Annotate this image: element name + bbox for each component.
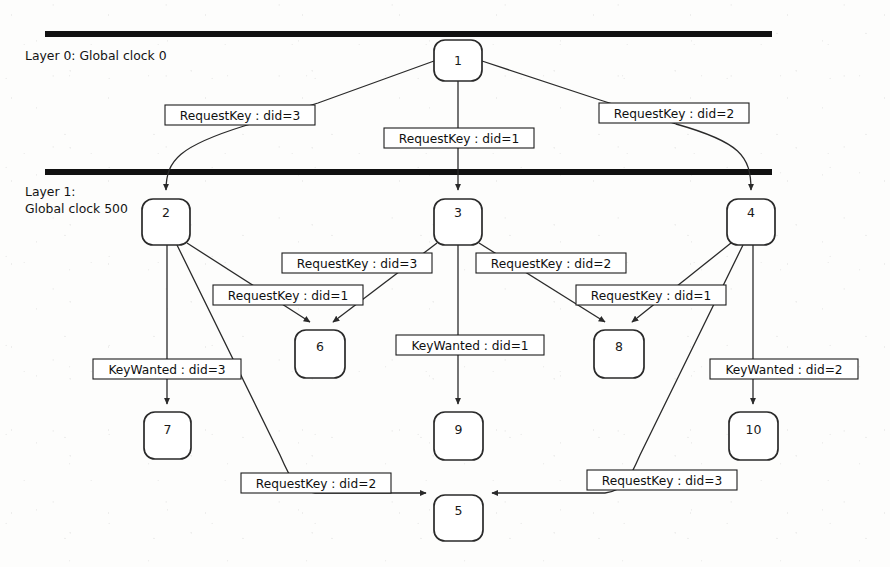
node-6-box[interactable]	[295, 330, 345, 378]
edge-label-3-to-6-text: RequestKey : did=3	[297, 257, 417, 271]
edge-label-4-to-10: KeyWanted : did=2	[710, 359, 858, 379]
node-7[interactable]: 7	[144, 412, 191, 459]
edge-label-2-to-6: RequestKey : did=1	[213, 285, 363, 305]
diagram-canvas: Layer 0: Global clock 0 Layer 1: Global …	[0, 0, 890, 567]
node-8-label: 8	[615, 339, 623, 354]
node-1[interactable]: 1	[434, 40, 482, 81]
edge-label-3-to-9-text: KeyWanted : did=1	[411, 339, 528, 353]
node-8-box[interactable]	[594, 330, 644, 378]
node-9-label: 9	[455, 422, 463, 437]
edge-label-4-to-5: RequestKey : did=3	[587, 470, 737, 490]
node-2-label: 2	[162, 205, 170, 220]
node-3[interactable]: 3	[434, 199, 482, 245]
edge-label-4-to-10-text: KeyWanted : did=2	[725, 363, 842, 377]
edge-label-4-to-8: RequestKey : did=1	[576, 285, 726, 305]
node-4-label: 4	[747, 205, 755, 220]
node-6[interactable]: 6	[295, 330, 345, 378]
edge-label-3-to-6: RequestKey : did=3	[282, 253, 432, 273]
edge-label-2-to-5-text: RequestKey : did=2	[256, 477, 376, 491]
layer-0-caption: Layer 0: Global clock 0	[25, 48, 167, 63]
edge-label-1-to-3-text: RequestKey : did=1	[399, 132, 519, 146]
edge-label-3-to-9: KeyWanted : did=1	[396, 335, 544, 355]
edge-label-3-to-8-text: RequestKey : did=2	[491, 257, 611, 271]
diagram-svg: Layer 0: Global clock 0 Layer 1: Global …	[0, 0, 890, 567]
layer-1-caption-line1: Layer 1:	[25, 184, 76, 199]
edge-label-1-to-2-text: RequestKey : did=3	[180, 109, 300, 123]
layer-1-caption-line2: Global clock 500	[25, 201, 128, 216]
node-2[interactable]: 2	[142, 199, 190, 245]
node-9[interactable]: 9	[434, 412, 483, 460]
edge-label-1-to-4: RequestKey : did=2	[599, 103, 749, 123]
edge-label-2-to-7-text: KeyWanted : did=3	[108, 363, 225, 377]
node-8[interactable]: 8	[594, 330, 644, 378]
edge-label-2-to-5: RequestKey : did=2	[241, 473, 391, 493]
edge-label-4-to-5-text: RequestKey : did=3	[602, 474, 722, 488]
edge-label-1-to-2: RequestKey : did=3	[165, 105, 315, 125]
edge-label-2-to-6-text: RequestKey : did=1	[228, 289, 348, 303]
edge-label-2-to-7: KeyWanted : did=3	[93, 359, 241, 379]
node-5-label: 5	[455, 503, 463, 518]
edge-label-1-to-3: RequestKey : did=1	[384, 128, 534, 148]
edge-4-to-8	[632, 243, 731, 322]
edge-label-3-to-8: RequestKey : did=2	[476, 253, 626, 273]
node-10[interactable]: 10	[729, 412, 778, 460]
node-3-label: 3	[454, 205, 462, 220]
node-1-label: 1	[454, 53, 462, 68]
node-5[interactable]: 5	[434, 495, 483, 541]
node-4[interactable]: 4	[727, 199, 775, 245]
node-10-label: 10	[746, 422, 762, 437]
edge-label-1-to-4-text: RequestKey : did=2	[614, 107, 734, 121]
edge-label-4-to-8-text: RequestKey : did=1	[591, 289, 711, 303]
layer-1-separator-bar	[45, 169, 772, 175]
node-6-label: 6	[316, 339, 324, 354]
node-7-label: 7	[164, 422, 172, 437]
layer-0-separator-bar	[45, 31, 772, 37]
